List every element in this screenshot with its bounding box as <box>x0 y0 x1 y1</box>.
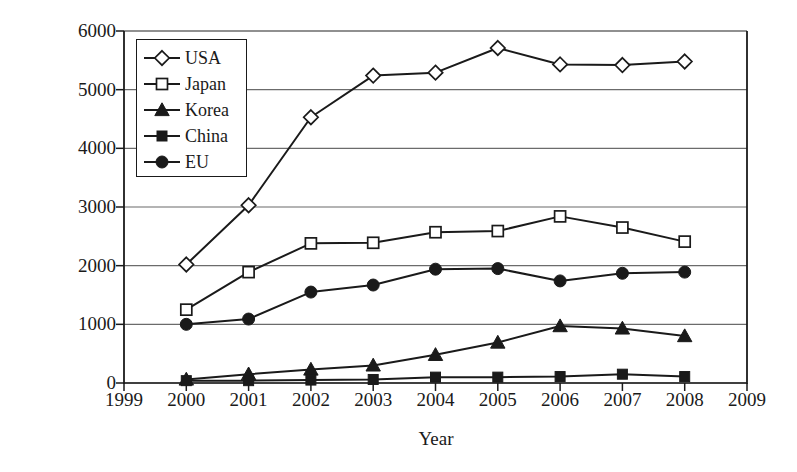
data-point-china-2007 <box>617 369 627 379</box>
legend-marker-glyph <box>155 51 169 65</box>
legend-item-japan[interactable]: Japan <box>137 71 246 97</box>
data-point-usa-2003 <box>366 68 380 82</box>
data-point-eu-2002 <box>305 286 317 298</box>
data-point-usa-2002 <box>304 110 318 124</box>
data-point-china-2006 <box>555 372 565 382</box>
legend-marker-triangle-filled-icon <box>142 100 182 120</box>
data-point-usa-2007 <box>615 58 629 72</box>
data-point-usa-2004 <box>428 65 442 79</box>
x-axis-title: Year <box>124 428 748 450</box>
data-point-japan-2000 <box>181 304 192 315</box>
data-point-eu-2000 <box>180 318 192 330</box>
data-point-china-2008 <box>680 372 690 382</box>
data-point-china-2005 <box>493 372 503 382</box>
legend-marker-diamond-open-icon <box>142 48 182 68</box>
data-point-japan-2004 <box>430 227 441 238</box>
legend-marker-square-open-icon <box>142 74 182 94</box>
data-point-eu-2004 <box>430 263 442 275</box>
data-point-china-2000 <box>181 376 191 386</box>
series-line-eu <box>186 269 684 325</box>
data-point-eu-2008 <box>679 266 691 278</box>
legend-label-usa: USA <box>182 49 221 67</box>
legend-item-korea[interactable]: Korea <box>137 97 246 123</box>
data-point-usa-2008 <box>678 54 692 68</box>
legend-item-china[interactable]: China <box>137 123 246 149</box>
data-point-china-2004 <box>431 372 441 382</box>
data-point-japan-2002 <box>305 238 316 249</box>
data-point-usa-2006 <box>553 57 567 71</box>
legend-label-japan: Japan <box>182 75 226 93</box>
legend-label-china: China <box>182 127 228 145</box>
legend-label-eu: EU <box>182 153 209 171</box>
data-point-japan-2006 <box>555 211 566 222</box>
x-tick-label-2009: 2009 <box>707 389 787 411</box>
legend-item-eu[interactable]: EU <box>137 149 246 175</box>
legend-marker-circle-filled-icon <box>142 152 182 172</box>
series-eu <box>180 263 690 331</box>
data-point-eu-2003 <box>367 279 379 291</box>
legend-marker-glyph <box>156 156 168 168</box>
legend-marker-square-filled-icon <box>142 126 182 146</box>
data-point-china-2001 <box>244 376 254 386</box>
data-point-eu-2001 <box>243 313 255 325</box>
data-point-japan-2001 <box>243 267 254 278</box>
line-chart: Number of Applications 01000200030004000… <box>0 0 797 472</box>
data-point-japan-2003 <box>368 237 379 248</box>
data-point-japan-2008 <box>679 236 690 247</box>
legend-marker-glyph <box>157 131 167 141</box>
data-point-china-2002 <box>306 375 316 385</box>
data-point-eu-2007 <box>616 267 628 279</box>
legend-item-usa[interactable]: USA <box>137 45 246 71</box>
data-point-japan-2005 <box>492 226 503 237</box>
legend: USAJapanKoreaChinaEU <box>136 39 247 177</box>
data-point-usa-2005 <box>491 41 505 55</box>
data-point-japan-2007 <box>617 222 628 233</box>
legend-marker-glyph <box>157 79 168 90</box>
data-point-eu-2005 <box>492 263 504 275</box>
legend-label-korea: Korea <box>182 101 229 119</box>
data-point-china-2003 <box>368 374 378 384</box>
data-point-eu-2006 <box>554 275 566 287</box>
